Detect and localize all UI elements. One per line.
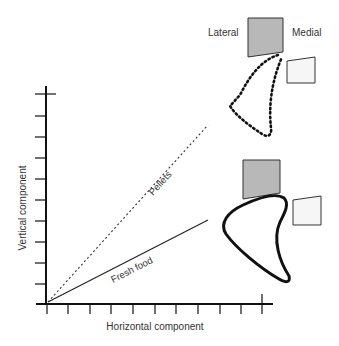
medial-block-bottom: [293, 196, 321, 225]
pellets-label: Pellets: [146, 169, 173, 198]
pellets-trajectory-shape: [230, 55, 282, 136]
lateral-block-top: [248, 18, 283, 57]
y-axis-label: Vertical component: [17, 165, 28, 250]
fresh-food-trajectory-shape: [224, 196, 290, 282]
x-axis-label: Horizontal component: [106, 321, 203, 332]
medial-block-top: [287, 57, 315, 83]
lateral-label: Lateral: [208, 27, 239, 38]
diagram-canvas: Vertical component Horizontal component …: [0, 0, 339, 346]
lateral-block-bottom: [243, 160, 280, 199]
fresh-food-vector: [48, 220, 208, 302]
medial-label: Medial: [292, 27, 321, 38]
